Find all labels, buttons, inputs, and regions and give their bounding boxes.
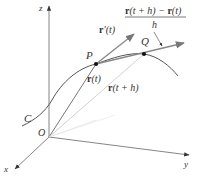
r-t-label: r(t) <box>87 73 102 85</box>
r-t-plus-h-label: r(t + h) <box>108 82 139 94</box>
r-prime-label: r′(t) <box>99 24 116 36</box>
label-pointer <box>154 32 162 46</box>
point-q <box>142 52 146 56</box>
origin-label: O <box>38 127 45 138</box>
y-axis <box>49 137 189 155</box>
vector-r-t-plus-h <box>49 54 144 137</box>
x-axis-label: x <box>3 164 8 174</box>
difference-quotient-denominator: h <box>152 19 157 30</box>
difference-quotient-numerator: r(t + h) − r(t) <box>125 5 182 17</box>
faint-line-2 <box>49 115 115 137</box>
y-axis-label: y <box>183 159 188 169</box>
derivative-vector-diagram: z x y O C P Q r′(t) r(t) r(t + h) r(t + … <box>0 0 197 185</box>
point-p-label: P <box>85 49 93 61</box>
x-axis <box>15 137 49 169</box>
point-p <box>94 62 98 66</box>
curve-label: C <box>24 112 32 124</box>
curve-c <box>22 54 178 126</box>
z-axis-label: z <box>38 3 43 13</box>
point-q-label: Q <box>141 35 149 47</box>
